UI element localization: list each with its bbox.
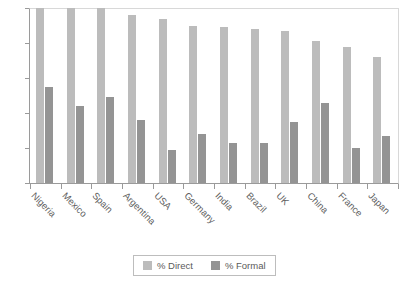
x-tick-mark xyxy=(275,184,276,189)
legend-label-direct: % Direct xyxy=(157,260,193,271)
bar-formal[interactable] xyxy=(168,150,176,183)
bar-formal[interactable] xyxy=(45,87,53,183)
y-tick-mark xyxy=(25,78,29,79)
bar-formal[interactable] xyxy=(229,143,237,183)
legend-item-formal[interactable]: % Formal xyxy=(211,260,266,271)
bar-group xyxy=(122,8,153,183)
bar-direct[interactable] xyxy=(67,8,75,183)
bar-direct[interactable] xyxy=(128,15,136,183)
bar-group xyxy=(153,8,184,183)
x-tick-label: Japan xyxy=(367,190,393,216)
bar-formal[interactable] xyxy=(76,106,84,183)
bar-group xyxy=(30,8,61,183)
x-tick-label: France xyxy=(336,190,365,219)
x-tick-mark xyxy=(61,184,62,189)
bar-direct[interactable] xyxy=(159,19,167,184)
legend-item-direct[interactable]: % Direct xyxy=(143,260,193,271)
x-tick-label: Brazil xyxy=(244,190,269,215)
y-tick-mark xyxy=(25,8,29,9)
x-tick-label: Spain xyxy=(91,190,116,215)
y-axis: 020406080100 xyxy=(0,0,30,286)
y-tick-mark xyxy=(25,183,29,184)
x-tick-mark xyxy=(214,184,215,189)
x-tick-mark xyxy=(183,184,184,189)
bar-formal[interactable] xyxy=(290,122,298,183)
bar-group xyxy=(367,8,398,183)
x-tick-label: Argentina xyxy=(121,190,158,227)
x-tick-mark xyxy=(30,184,31,189)
bar-formal[interactable] xyxy=(198,134,206,183)
bar-direct[interactable] xyxy=(343,47,351,184)
bar-direct[interactable] xyxy=(312,41,320,183)
bar-formal[interactable] xyxy=(382,136,390,183)
x-tick-mark xyxy=(91,184,92,189)
legend-swatch-formal-icon xyxy=(211,261,220,270)
y-tick-mark xyxy=(25,113,29,114)
bar-group xyxy=(214,8,245,183)
x-tick-label: China xyxy=(305,190,330,215)
x-axis-labels: NigeriaMexicoSpainArgentinaUSAGermanyInd… xyxy=(30,190,402,242)
bar-direct[interactable] xyxy=(97,8,105,183)
bar-group xyxy=(275,8,306,183)
bar-group xyxy=(91,8,122,183)
x-tick-label: Mexico xyxy=(60,190,89,219)
x-tick-mark xyxy=(153,184,154,189)
x-tick-mark xyxy=(122,184,123,189)
bar-formal[interactable] xyxy=(260,143,268,183)
x-tick-mark xyxy=(306,184,307,189)
bar-formal[interactable] xyxy=(321,103,329,184)
x-tick-label: Nigeria xyxy=(29,190,58,219)
bar-formal[interactable] xyxy=(137,120,145,183)
bar-direct[interactable] xyxy=(281,31,289,183)
legend-swatch-direct-icon xyxy=(143,261,152,270)
chart-legend: % Direct % Formal xyxy=(133,255,276,276)
x-tick-label: USA xyxy=(152,190,174,212)
x-tick-label: UK xyxy=(275,190,292,207)
x-tick-label: India xyxy=(213,190,235,212)
x-tick-label: Germany xyxy=(183,190,218,225)
bar-group xyxy=(183,8,214,183)
bar-direct[interactable] xyxy=(189,26,197,184)
bar-group xyxy=(61,8,92,183)
bar-direct[interactable] xyxy=(251,29,259,183)
x-tick-mark xyxy=(367,184,368,189)
legend-label-formal: % Formal xyxy=(225,260,266,271)
bars-layer xyxy=(30,8,398,183)
bar-group xyxy=(245,8,276,183)
bar-direct[interactable] xyxy=(373,57,381,183)
y-tick-mark xyxy=(25,148,29,149)
x-tick-mark xyxy=(245,184,246,189)
x-tick-mark xyxy=(398,184,399,189)
bar-formal[interactable] xyxy=(352,148,360,183)
bar-group xyxy=(306,8,337,183)
x-tick-mark xyxy=(337,184,338,189)
bar-chart: 020406080100 NigeriaMexicoSpainArgentina… xyxy=(0,0,402,286)
bar-group xyxy=(337,8,368,183)
bar-direct[interactable] xyxy=(36,8,44,183)
y-tick-mark xyxy=(25,43,29,44)
bar-direct[interactable] xyxy=(220,27,228,183)
bar-formal[interactable] xyxy=(106,97,114,183)
